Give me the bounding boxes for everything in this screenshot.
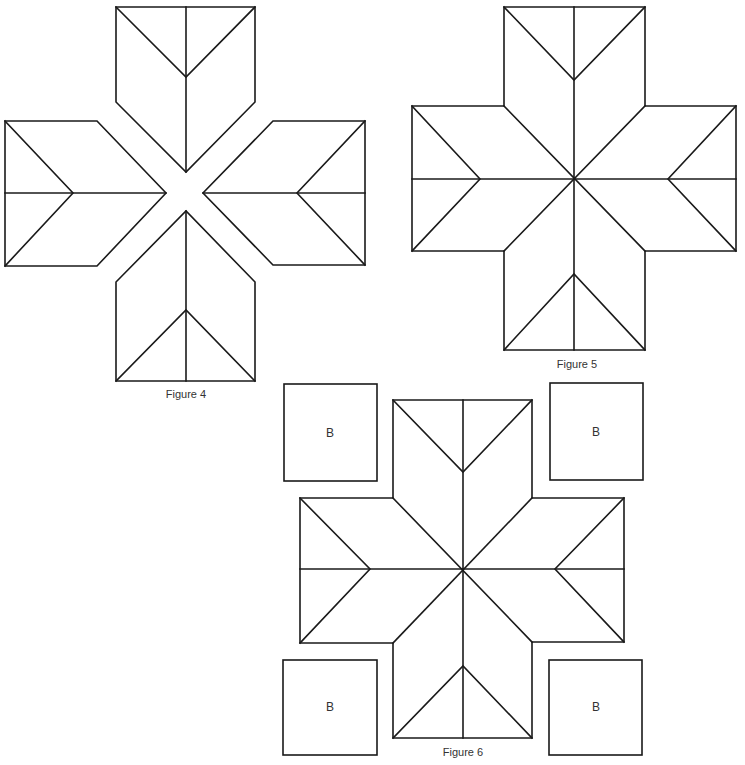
figure-6: B B B B Figure 6 <box>283 383 643 758</box>
square-label-b: B <box>592 425 600 439</box>
quilt-diagram-canvas: Figure 4 Figure 5 B B B <box>0 0 745 765</box>
corner-square-bottom-right: B <box>549 660 642 755</box>
figure-4-caption: Figure 4 <box>166 388 206 400</box>
figure-4-top-unit <box>116 7 255 172</box>
figure-4-left-unit <box>5 121 166 266</box>
square-label-b: B <box>592 700 600 714</box>
figure-4: Figure 4 <box>5 7 365 400</box>
figure-6-caption: Figure 6 <box>443 746 483 758</box>
corner-square-top-left: B <box>284 384 377 481</box>
figure-4-right-unit <box>203 121 365 265</box>
corner-square-bottom-left: B <box>283 660 377 755</box>
corner-square-top-right: B <box>550 383 643 480</box>
figure-6-star <box>300 400 624 738</box>
figure-5: Figure 5 <box>412 7 736 370</box>
figure-4-bottom-unit <box>116 211 255 381</box>
square-label-b: B <box>326 426 334 440</box>
square-label-b: B <box>326 700 334 714</box>
figure-5-caption: Figure 5 <box>557 358 597 370</box>
